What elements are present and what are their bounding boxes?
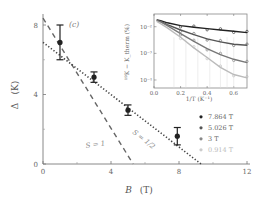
main-y-axis-label: Δ (K) [3, 81, 22, 109]
inset-x-tick-label: 0.2 [176, 90, 185, 96]
legend-marker [199, 148, 202, 151]
y-tick-label: 0 [34, 161, 38, 169]
y-axis-variable: Δ [10, 102, 20, 109]
x-axis-variable: B [124, 185, 132, 195]
inset-x-axis-label: 1/T (K⁻¹) [186, 95, 212, 102]
x-tick-label: 0 [41, 168, 45, 176]
legend-marker [199, 126, 202, 129]
x-axis-unit: (T) [140, 185, 153, 195]
y-axis-unit: (K) [10, 81, 20, 95]
legend-label: 5.026 T [208, 124, 234, 132]
y-tick-label: 4 [34, 91, 39, 99]
marker [175, 134, 180, 139]
inset-y-axis-label: ¹⁹K − K_therm (%) [123, 24, 131, 80]
data-point [91, 72, 98, 82]
inset-plot: 0.00.20.40.610⁻²10⁻³10⁻⁴ 1/T (K⁻¹) ¹⁹K −… [123, 14, 248, 102]
marker [125, 108, 130, 113]
marker [57, 40, 62, 45]
chart-figure: 04812048 (c) S = 1 S = 1/2 B (T) Δ (K) 0… [0, 0, 261, 202]
inset-y-tick-label: 10⁻³ [140, 50, 152, 56]
x-tick-label: 12 [243, 168, 252, 176]
fit-label-s1: S = 1 [85, 139, 106, 150]
inset-x-tick-label: 0.6 [229, 90, 238, 96]
legend-label: 3 T [208, 135, 219, 143]
legend-marker [199, 115, 202, 118]
data-point [174, 128, 181, 145]
inset-x-tick-label: 0.0 [150, 90, 159, 96]
y-tick-label: 8 [34, 22, 38, 30]
inset-y-tick-label: 10⁻⁴ [140, 77, 153, 83]
legend-marker [199, 137, 202, 140]
inset-y-tick-label: 10⁻² [140, 24, 152, 30]
main-x-axis-label: B (T) [124, 178, 153, 197]
x-tick-label: 8 [177, 168, 181, 176]
legend-label: 0.914 T [208, 146, 234, 154]
data-point [125, 105, 132, 115]
data-point [57, 25, 64, 60]
marker [91, 75, 96, 80]
fit-label-s-half: S = 1/2 [131, 128, 157, 151]
x-tick-label: 4 [109, 168, 114, 176]
legend: 7.864 T5.026 T3 T0.914 T [199, 113, 233, 154]
panel-label: (c) [69, 20, 79, 29]
legend-label: 7.864 T [208, 113, 234, 121]
